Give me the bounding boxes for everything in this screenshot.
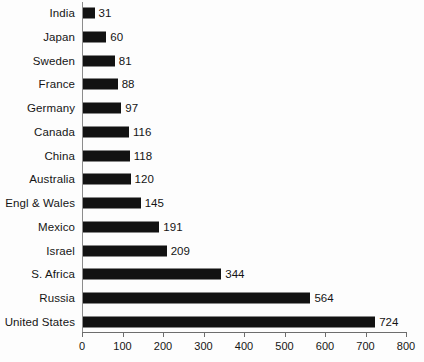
bar	[82, 269, 221, 280]
category-label: United States	[0, 316, 75, 328]
chart-row: Sweden81	[0, 50, 424, 72]
bar	[82, 317, 375, 328]
category-label: S. Africa	[0, 268, 75, 280]
category-label: Mexico	[0, 221, 75, 233]
chart-row: Germany97	[0, 97, 424, 119]
category-label: Germany	[0, 102, 75, 114]
bar	[82, 126, 129, 137]
bar	[82, 221, 159, 232]
y-axis-line	[82, 2, 83, 332]
bar-value-label: 118	[134, 150, 152, 162]
chart-row: Russia564	[0, 287, 424, 309]
chart-row: India31	[0, 2, 424, 24]
x-axis-tick-label: 500	[275, 340, 293, 352]
x-axis-tick	[406, 332, 407, 337]
category-label: Sweden	[0, 55, 75, 67]
bar-value-label: 564	[314, 292, 333, 304]
bar	[82, 79, 118, 90]
bar-value-label: 120	[135, 173, 154, 185]
chart-row: China118	[0, 145, 424, 167]
category-label: Engl & Wales	[0, 197, 75, 209]
bar	[82, 150, 130, 161]
bar-value-label: 88	[122, 78, 135, 90]
bar	[82, 31, 106, 42]
chart-row: United States724	[0, 311, 424, 333]
bar-value-label: 191	[163, 221, 182, 233]
x-axis-tick	[82, 332, 83, 337]
x-axis-tick-label: 600	[316, 340, 334, 352]
category-label: France	[0, 78, 75, 90]
bar-value-label: 145	[145, 197, 164, 209]
chart-row: France88	[0, 73, 424, 95]
bar-value-label: 209	[171, 245, 190, 257]
category-label: Canada	[0, 126, 75, 138]
x-axis-tick-label: 300	[194, 340, 212, 352]
bar-chart: India31Japan60Sweden81France88Germany97C…	[0, 0, 424, 362]
x-axis-tick-label: 0	[79, 340, 85, 352]
x-axis-tick	[204, 332, 205, 337]
bar-value-label: 344	[225, 268, 244, 280]
bar-value-label: 724	[379, 316, 398, 328]
category-label: Russia	[0, 292, 75, 304]
category-label: Japan	[0, 31, 75, 43]
x-axis-tick-label: 200	[154, 340, 172, 352]
bar-value-label: 116	[133, 126, 151, 138]
bar	[82, 55, 115, 66]
x-axis-tick-label: 800	[397, 340, 415, 352]
bar	[82, 174, 131, 185]
category-label: India	[0, 7, 75, 19]
chart-row: Israel209	[0, 240, 424, 262]
bar-value-label: 97	[125, 102, 138, 114]
category-label: Israel	[0, 245, 75, 257]
x-axis-tick	[325, 332, 326, 337]
chart-row: Australia120	[0, 168, 424, 190]
chart-row: S. Africa344	[0, 263, 424, 285]
chart-row: Engl & Wales145	[0, 192, 424, 214]
chart-row: Japan60	[0, 26, 424, 48]
x-axis-tick	[163, 332, 164, 337]
x-axis-tick-label: 400	[235, 340, 253, 352]
bar	[82, 293, 310, 304]
bar	[82, 8, 95, 19]
x-axis-tick	[123, 332, 124, 337]
bar	[82, 198, 141, 209]
bar	[82, 245, 167, 256]
bar-value-label: 31	[99, 7, 112, 19]
chart-row: Canada116	[0, 121, 424, 143]
x-axis-tick	[244, 332, 245, 337]
bar-value-label: 81	[119, 55, 132, 67]
x-axis-tick-label: 700	[356, 340, 374, 352]
bar	[82, 103, 121, 114]
bar-value-label: 60	[110, 31, 123, 43]
chart-row: Mexico191	[0, 216, 424, 238]
x-axis-tick	[285, 332, 286, 337]
category-label: China	[0, 150, 75, 162]
category-label: Australia	[0, 173, 75, 185]
x-axis-tick	[366, 332, 367, 337]
x-axis-tick-label: 100	[113, 340, 131, 352]
